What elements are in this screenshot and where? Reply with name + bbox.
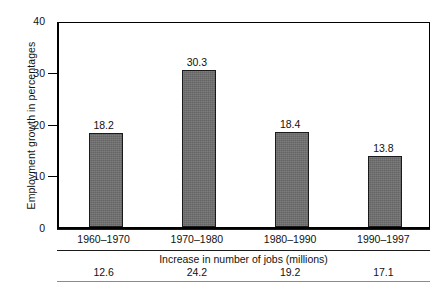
- table-period-cell: 1960–1970: [57, 233, 150, 246]
- jobs-table: 1960–19701970–19801980–19901990–1997 Inc…: [57, 229, 430, 291]
- table-caption: Increase in number of jobs (millions): [57, 253, 430, 266]
- bar-1990–1997: [368, 156, 402, 227]
- chart-figure: Employment growth in percentages 0102030…: [0, 0, 446, 299]
- table-jobs-cell: 19.2: [244, 266, 337, 279]
- y-tick-label: 30: [21, 68, 45, 79]
- bar-value-label: 30.3: [172, 57, 222, 68]
- table-rule-middle: [57, 250, 430, 251]
- table-period-row: 1960–19701970–19801980–19901990–1997: [57, 233, 430, 246]
- y-tick-label: 10: [21, 171, 45, 182]
- y-tick-mark: [48, 125, 57, 126]
- table-jobs-cell: 12.6: [57, 266, 150, 279]
- table-rule-top: [57, 229, 430, 230]
- bar-1960–1970: [89, 133, 123, 227]
- bar-value-label: 13.8: [358, 143, 408, 154]
- y-tick-label: 0: [21, 223, 45, 234]
- table-period-cell: 1980–1990: [244, 233, 337, 246]
- bar-1980–1990: [275, 132, 309, 227]
- table-value-row: 12.624.219.217.1: [57, 266, 430, 279]
- y-tick-label: 40: [21, 16, 45, 27]
- table-jobs-cell: 24.2: [150, 266, 243, 279]
- table-jobs-cell: 17.1: [337, 266, 430, 279]
- table-period-cell: 1970–1980: [150, 233, 243, 246]
- bar-value-label: 18.4: [265, 119, 315, 130]
- bar-1970–1980: [182, 70, 216, 227]
- bar-value-label: 18.2: [79, 120, 129, 131]
- table-period-cell: 1990–1997: [337, 233, 430, 246]
- y-tick-mark: [48, 73, 57, 74]
- y-tick-mark: [48, 176, 57, 177]
- table-rule-bottom: [57, 281, 430, 282]
- y-tick-label: 20: [21, 120, 45, 131]
